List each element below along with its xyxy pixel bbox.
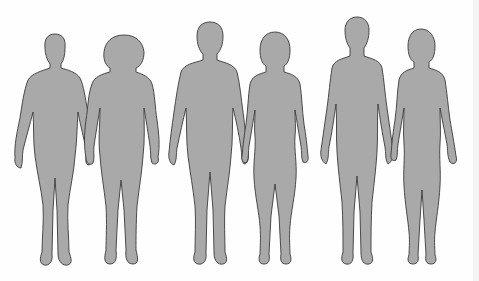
figure-female-average (242, 32, 308, 264)
figure-male-average (169, 22, 249, 264)
figure-female-stout (85, 35, 160, 264)
body-silhouettes-illustration (0, 0, 479, 281)
silhouettes-svg (0, 0, 479, 281)
figure-female-slim (391, 29, 457, 264)
page-edge (473, 0, 479, 281)
figure-male-stout (15, 34, 93, 265)
figure-male-slim (321, 17, 394, 264)
